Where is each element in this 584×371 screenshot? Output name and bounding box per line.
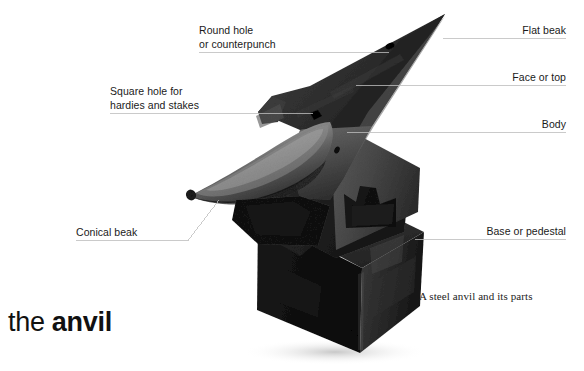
callout-conical-beak-line1: Conical beak — [76, 226, 137, 240]
callout-round-hole: Round hole or counterpunch — [199, 24, 276, 51]
figure-caption: A steel anvil and its parts — [419, 290, 533, 302]
callout-square-hole-line2: hardies and stakes — [110, 99, 199, 113]
callout-body-line1: Body — [542, 118, 566, 132]
callout-face-or-top-line1: Face or top — [512, 71, 566, 85]
page-title: the anvil — [8, 307, 112, 338]
page-title-prefix: the — [8, 307, 52, 337]
callout-face-or-top: Face or top — [512, 71, 566, 85]
callout-body: Body — [542, 118, 566, 132]
ground-shadow — [243, 339, 427, 365]
callout-base-pedestal-line1: Base or pedestal — [486, 225, 566, 239]
callout-conical-beak: Conical beak — [76, 226, 137, 240]
callout-flat-beak: Flat beak — [522, 24, 566, 38]
callout-square-hole-line1: Square hole for — [110, 85, 199, 99]
callout-square-hole: Square hole for hardies and stakes — [110, 85, 199, 112]
anvil-under-mass — [232, 196, 330, 246]
callout-base-pedestal: Base or pedestal — [486, 225, 566, 239]
page-title-word: anvil — [52, 307, 112, 337]
callout-flat-beak-line1: Flat beak — [522, 24, 566, 38]
anvil-diagram-page: Round hole or counterpunch Square hole f… — [0, 0, 584, 371]
callout-round-hole-line1: Round hole — [199, 24, 276, 38]
callout-round-hole-line2: or counterpunch — [199, 38, 276, 52]
